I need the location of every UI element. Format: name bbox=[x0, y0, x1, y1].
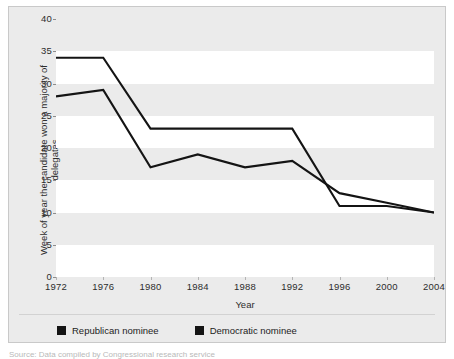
y-axis-tick-label: 10 bbox=[12, 208, 52, 218]
x-axis-tick-mark bbox=[245, 277, 246, 280]
x-axis-tick-label: 1996 bbox=[329, 281, 351, 292]
x-axis-tick-mark bbox=[292, 277, 293, 280]
x-axis-tick-label: 1992 bbox=[281, 281, 303, 292]
y-axis-tick-label: 35 bbox=[12, 46, 52, 56]
x-axis-tick-labels: 197219761980198419881992199620002004 bbox=[56, 281, 434, 295]
legend-item[interactable]: Democratic nominee bbox=[195, 325, 297, 336]
y-axis-tick-label: 30 bbox=[12, 79, 52, 89]
chart-figure: Week of year the candidate won a majorit… bbox=[8, 6, 446, 343]
legend-divider bbox=[19, 314, 435, 315]
x-axis-tick-mark bbox=[387, 277, 388, 280]
x-axis-tick-mark bbox=[434, 277, 435, 280]
x-axis-tick-label: 1988 bbox=[234, 281, 256, 292]
legend-label: Republican nominee bbox=[72, 325, 159, 336]
plot-area-wrapper bbox=[56, 19, 434, 277]
x-axis-tick-mark bbox=[151, 277, 152, 280]
x-axis-tick-label: 1972 bbox=[45, 281, 67, 292]
legend-item[interactable]: Republican nominee bbox=[57, 325, 159, 336]
x-axis-tick-mark bbox=[340, 277, 341, 280]
y-axis-tick-label: 25 bbox=[12, 111, 52, 121]
x-axis-tick-label: 2004 bbox=[423, 281, 445, 292]
figure-caption: Source: Data compiled by Congressional r… bbox=[9, 350, 449, 359]
chart-legend: Republican nomineeDemocratic nominee bbox=[57, 323, 297, 337]
x-axis-tick-mark bbox=[56, 277, 57, 280]
legend-swatch-icon bbox=[195, 326, 204, 335]
y-axis-tick-label: 5 bbox=[12, 240, 52, 250]
x-axis-tick-label: 1984 bbox=[187, 281, 209, 292]
y-axis-tick-labels: 0510152025303540 bbox=[9, 19, 52, 277]
x-axis-tick-label: 1976 bbox=[92, 281, 114, 292]
x-axis-tick-mark bbox=[198, 277, 199, 280]
x-axis-tick-label: 1980 bbox=[140, 281, 162, 292]
plot-area bbox=[56, 19, 434, 277]
y-axis-tick-label: 40 bbox=[12, 14, 52, 24]
series-line-republican bbox=[56, 58, 434, 213]
legend-label: Democratic nominee bbox=[210, 325, 297, 336]
x-axis-tick-label: 2000 bbox=[376, 281, 398, 292]
x-axis-title: Year bbox=[56, 299, 434, 310]
x-axis-tick-mark bbox=[103, 277, 104, 280]
series-line-democratic bbox=[56, 90, 434, 213]
x-axis-tick-marks bbox=[56, 277, 434, 280]
series-lines bbox=[56, 19, 434, 277]
legend-swatch-icon bbox=[57, 326, 66, 335]
y-axis-tick-label: 20 bbox=[12, 143, 52, 153]
y-axis-tick-label: 15 bbox=[12, 175, 52, 185]
